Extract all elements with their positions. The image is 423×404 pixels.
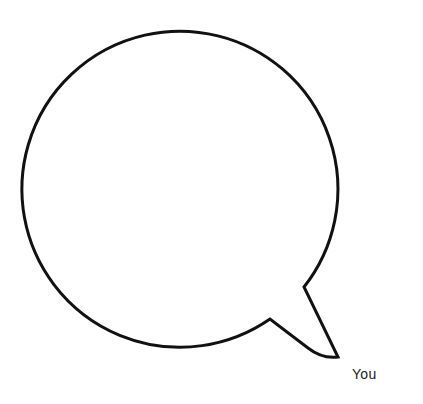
speech-bubble-outline bbox=[22, 31, 338, 357]
speech-bubble-diagram: You bbox=[0, 0, 423, 404]
speaker-label: You bbox=[352, 366, 377, 382]
speech-bubble-icon bbox=[0, 0, 423, 404]
